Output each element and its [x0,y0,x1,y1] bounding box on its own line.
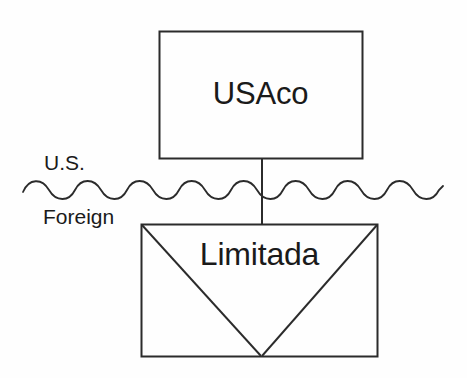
foreign-region-label: Foreign [43,206,114,227]
us-region-label: U.S. [44,152,85,173]
jurisdiction-border-wavy-line [23,181,443,199]
limitada-node-label: Limitada [0,238,467,270]
diagram-vector-layer [0,0,467,378]
diagram-canvas: USAco Limitada U.S. Foreign [0,0,467,378]
usaco-node-label: USAco [0,78,467,109]
usaco-node-label-text: USAco [213,78,308,109]
limitada-node-label-text: Limitada [200,238,319,270]
